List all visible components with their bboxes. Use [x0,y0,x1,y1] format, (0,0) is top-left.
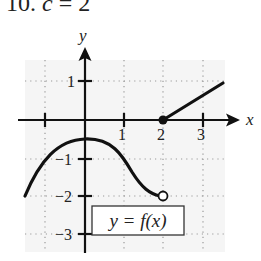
y-tick-label-neg3: −3 [55,226,72,243]
x-axis-label: x [245,110,254,129]
figure: 10. c = 2 [0,0,261,261]
x-tick-label-1: 1 [118,126,126,143]
x-tick-label-3: 3 [197,126,205,143]
open-circle-icon [159,192,168,201]
y-axis-label: y [77,26,87,45]
y-tick-label-1: 1 [67,73,75,90]
graph: x y 1 2 3 1 −1 −2 −3 y = f(x) [0,0,261,261]
x-tick-label-2: 2 [157,126,165,143]
function-label: y = f(x) [107,210,166,232]
y-tick-label-neg2: −2 [55,188,72,205]
closed-dot-icon [159,116,168,125]
y-tick-label-neg1: −1 [55,151,72,168]
